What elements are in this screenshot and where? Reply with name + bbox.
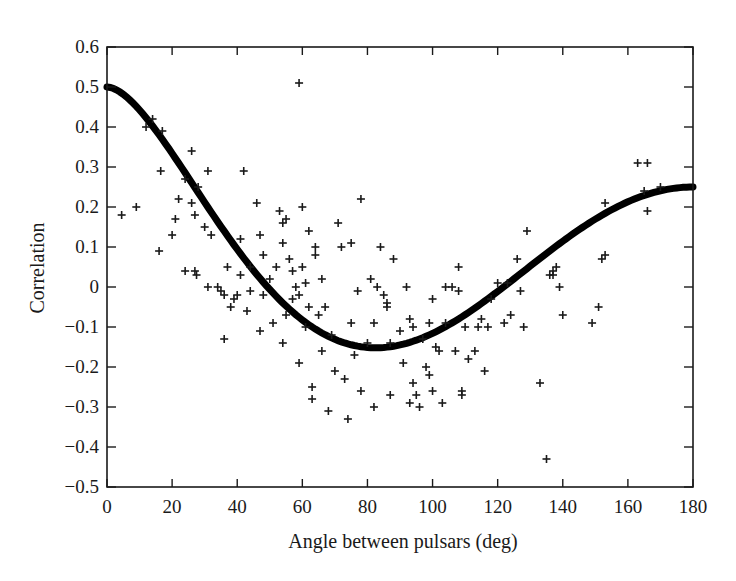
plus-marker <box>181 267 189 275</box>
plus-marker <box>272 263 280 271</box>
plus-marker <box>118 211 126 219</box>
plus-marker <box>357 195 365 203</box>
plus-marker <box>458 387 466 395</box>
plus-marker <box>289 267 297 275</box>
plus-marker <box>455 287 463 295</box>
x-tick-label: 40 <box>228 496 247 517</box>
plus-marker <box>471 347 479 355</box>
plus-marker <box>188 199 196 207</box>
plus-marker <box>523 227 531 235</box>
plus-marker <box>246 287 254 295</box>
plus-marker <box>634 159 642 167</box>
plus-marker <box>399 359 407 367</box>
plus-marker <box>318 275 326 283</box>
plus-marker <box>334 219 342 227</box>
plus-marker <box>191 267 199 275</box>
plus-marker <box>305 303 313 311</box>
data-points <box>118 79 665 463</box>
plus-marker <box>448 283 456 291</box>
plus-marker <box>595 303 603 311</box>
x-tick-label: 20 <box>163 496 182 517</box>
plus-marker <box>132 203 140 211</box>
plus-marker <box>451 347 459 355</box>
plus-marker <box>259 251 267 259</box>
plus-marker <box>396 327 404 335</box>
plus-marker <box>409 323 417 331</box>
plus-marker <box>227 303 235 311</box>
plus-marker <box>484 323 492 331</box>
x-axis-ticks: 020406080100120140160180 <box>102 47 707 517</box>
plus-marker <box>409 379 417 387</box>
y-tick-label: −0.1 <box>65 316 99 337</box>
y-tick-label: 0 <box>90 276 100 297</box>
plus-marker <box>308 383 316 391</box>
plus-marker <box>321 303 329 311</box>
plus-marker <box>315 311 323 319</box>
plus-marker <box>236 235 244 243</box>
plus-marker <box>220 335 228 343</box>
plus-marker <box>344 415 352 423</box>
plus-marker <box>193 271 201 279</box>
plus-marker <box>507 311 515 319</box>
plus-marker <box>305 227 313 235</box>
plus-marker <box>354 287 362 295</box>
plus-marker <box>259 291 267 299</box>
plus-marker <box>311 243 319 251</box>
plus-marker <box>406 399 414 407</box>
plus-marker <box>337 243 345 251</box>
plus-marker <box>383 299 391 307</box>
plus-marker <box>308 395 316 403</box>
y-tick-label: −0.2 <box>65 356 99 377</box>
y-tick-label: −0.3 <box>65 396 99 417</box>
plus-marker <box>367 275 375 283</box>
plus-marker <box>516 287 524 295</box>
plus-marker <box>155 247 163 255</box>
plus-marker <box>298 203 306 211</box>
x-axis-title: Angle between pulsars (deg) <box>288 530 517 553</box>
plus-marker <box>311 251 319 259</box>
plus-marker <box>201 223 209 231</box>
x-tick-label: 80 <box>358 496 377 517</box>
plus-marker <box>474 323 482 331</box>
y-axis-title: Correlation <box>26 222 48 313</box>
plus-marker <box>318 347 326 355</box>
plus-marker <box>324 407 332 415</box>
y-tick-label: −0.5 <box>65 476 99 497</box>
plus-marker <box>389 255 397 263</box>
plus-marker <box>422 363 430 371</box>
plus-marker <box>556 283 564 291</box>
plus-marker <box>520 323 528 331</box>
plus-marker <box>157 167 165 175</box>
plus-marker <box>461 323 469 331</box>
plus-marker <box>643 207 651 215</box>
plus-marker <box>341 375 349 383</box>
plus-marker <box>295 291 303 299</box>
plus-marker <box>543 455 551 463</box>
plus-marker <box>403 283 411 291</box>
y-tick-label: 0.6 <box>75 36 99 57</box>
plus-marker <box>373 283 381 291</box>
plus-marker <box>429 387 437 395</box>
y-axis-ticks: 0.60.50.40.30.20.10−0.1−0.2−0.3−0.4−0.5 <box>65 36 693 497</box>
plus-marker <box>223 263 231 271</box>
plus-marker <box>236 271 244 279</box>
plus-marker <box>370 403 378 411</box>
plus-marker <box>191 211 199 219</box>
plus-marker <box>347 239 355 247</box>
plus-marker <box>347 319 355 327</box>
plus-marker <box>207 231 215 239</box>
plus-marker <box>376 243 384 251</box>
y-tick-label: 0.3 <box>75 156 99 177</box>
x-tick-label: 180 <box>679 496 708 517</box>
plus-marker <box>500 319 508 327</box>
plus-marker <box>464 355 472 363</box>
plus-marker <box>204 283 212 291</box>
plus-marker <box>289 295 297 303</box>
plus-marker <box>292 283 300 291</box>
plus-marker <box>298 263 306 271</box>
x-tick-label: 0 <box>102 496 112 517</box>
y-tick-label: 0.4 <box>75 116 99 137</box>
plus-marker <box>302 279 310 287</box>
plus-marker <box>240 167 248 175</box>
plus-marker <box>601 199 609 207</box>
